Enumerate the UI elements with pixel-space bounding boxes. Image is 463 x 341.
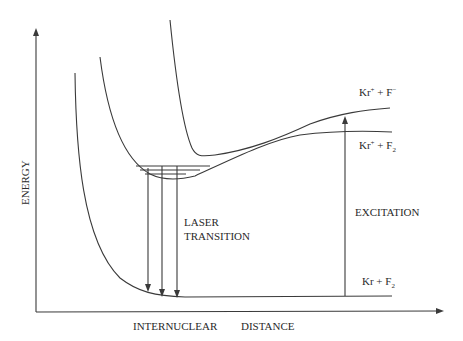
- laser-label-line1: LASER: [184, 216, 220, 228]
- axes: [36, 32, 440, 312]
- laser-label-line2: TRANSITION: [184, 230, 250, 242]
- energy-diagram: ENERGY INTERNUCLEAR DISTANCE LASER TRANS…: [0, 0, 463, 341]
- x-axis-label-part1: INTERNUCLEAR: [133, 320, 218, 332]
- excited-bound-curve: [100, 57, 392, 179]
- ionic-curve-label: Kr+ + F−: [359, 86, 396, 98]
- ionic-curve: [170, 20, 390, 156]
- ground-curve-label: Kr + F2: [362, 275, 395, 290]
- x-axis: [36, 311, 440, 312]
- excited-curve-label: Kr+ + F2: [359, 139, 396, 154]
- excitation-label: EXCITATION: [355, 206, 420, 218]
- y-axis-label: ENERGY: [19, 160, 31, 205]
- laser-transition-arrows: [148, 166, 177, 294]
- x-axis-label-part2: DISTANCE: [241, 320, 295, 332]
